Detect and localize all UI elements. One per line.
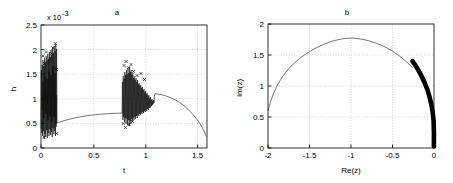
panel-a-ytick-3: 1.5 (26, 70, 38, 79)
panel-b-gridlines (268, 24, 434, 148)
panel-b-highlighted-boundary-segment (413, 61, 434, 146)
panel-a-xlabel: t (123, 166, 126, 175)
panel-b-ytick-1: 0.5 (253, 113, 265, 122)
panel-b-xtick-2: -1 (347, 151, 355, 160)
panel-b-xtick-1: -1.5 (303, 151, 317, 160)
panel-a-ytick-1: 0.5 (26, 119, 38, 128)
panel-b-xtick-3: -0.5 (386, 151, 400, 160)
panel-a-ytick-4: 2 (33, 46, 38, 55)
panel-b: b (227, 0, 453, 183)
panel-b-xtick-0: -2 (264, 151, 272, 160)
panel-b-title: b (345, 8, 350, 17)
panel-a-burst-2 (122, 67, 155, 126)
panel-b-svg: b (227, 0, 453, 183)
panel-a-xtick-0: 0 (39, 151, 44, 160)
panel-b-ylabel: Im(z) (235, 79, 244, 98)
panel-a-step-size-decay-tail (155, 94, 207, 137)
panel-b-ytick-0: 0 (260, 144, 265, 153)
figure-container: a x 10 -3 (0, 0, 453, 183)
panel-a-svg: a x 10 -3 (0, 0, 227, 183)
panel-b-xlabel: Re(z) (341, 166, 361, 175)
panel-a-xtick-1: 0.5 (88, 151, 100, 160)
panel-a-y-exponent-power: -3 (62, 9, 69, 18)
panel-b-ytick-4: 2 (260, 20, 265, 29)
panel-b-xtick-4: 0 (432, 151, 437, 160)
panel-a-y-exponent-label: x 10 (47, 13, 61, 22)
panel-a-xtick-2: 1 (144, 151, 149, 160)
panel-a-step-size-envelope (57, 113, 122, 123)
panel-b-stability-boundary (268, 38, 412, 111)
panel-a-tickmarks (41, 25, 198, 148)
panel-a-ylabel: h (9, 87, 18, 91)
panel-b-ytick-3: 1.5 (253, 51, 265, 60)
panel-a-xtick-3: 1.5 (192, 151, 204, 160)
panel-a-ytick-5: 2.5 (26, 21, 38, 30)
panel-a-ytick-2: 1 (33, 95, 38, 104)
panel-a: a x 10 -3 (0, 0, 227, 183)
panel-b-ytick-2: 1 (260, 82, 265, 91)
panel-a-title: a (115, 8, 120, 17)
panel-a-ytick-0: 0 (33, 144, 38, 153)
